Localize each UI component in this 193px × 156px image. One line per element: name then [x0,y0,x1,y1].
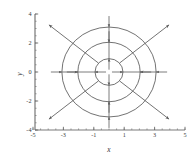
x-axis-label: x [106,145,111,154]
phase-portrait-plot: -5-3-1135-4-2024 x y [0,0,193,156]
y-axis-tick-label: -4 [26,126,31,133]
flow-direction-arrows-group [51,16,167,128]
x-axis-tick-label: 1 [123,131,126,138]
x-axis-tick-label: -3 [61,131,66,138]
figure-canvas: -5-3-1135-4-2024 x y [0,0,193,156]
x-axis-tick-label: 3 [153,131,156,138]
y-axis-tick-label: 4 [28,10,31,17]
y-axis-tick-label: -2 [26,97,31,104]
x-axis-tick-label: 5 [183,131,186,138]
x-axis-tick-label: -1 [91,131,96,138]
y-axis-tick-label: 0 [28,68,31,75]
y-axis-label: y [15,72,24,77]
y-axis-tick-label: 2 [28,39,31,46]
